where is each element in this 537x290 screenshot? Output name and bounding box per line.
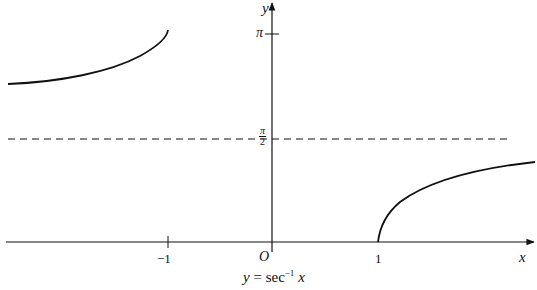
y-tick-label-pi: π — [256, 25, 263, 41]
x-tick-label-neg-one: −1 — [157, 251, 171, 267]
curve-right-branch — [378, 162, 535, 242]
curve-left-branch — [8, 30, 168, 84]
y-axis-label: y — [262, 0, 269, 17]
origin-label: O — [259, 249, 269, 265]
chart: y x π π 2 −1 1 O y = sec−1 x — [0, 0, 537, 290]
x-axis-label: x — [519, 249, 526, 266]
y-tick-label-pi-over-2: π 2 — [259, 126, 266, 147]
caption-x: x — [294, 269, 304, 285]
chart-caption: y = sec−1 x — [243, 268, 305, 286]
x-tick-label-one: 1 — [375, 251, 382, 267]
plot-area — [0, 0, 537, 290]
caption-exponent: −1 — [285, 268, 295, 278]
caption-eq: = sec — [250, 269, 285, 285]
fraction-denominator: 2 — [259, 137, 266, 147]
caption-y: y — [243, 269, 250, 285]
